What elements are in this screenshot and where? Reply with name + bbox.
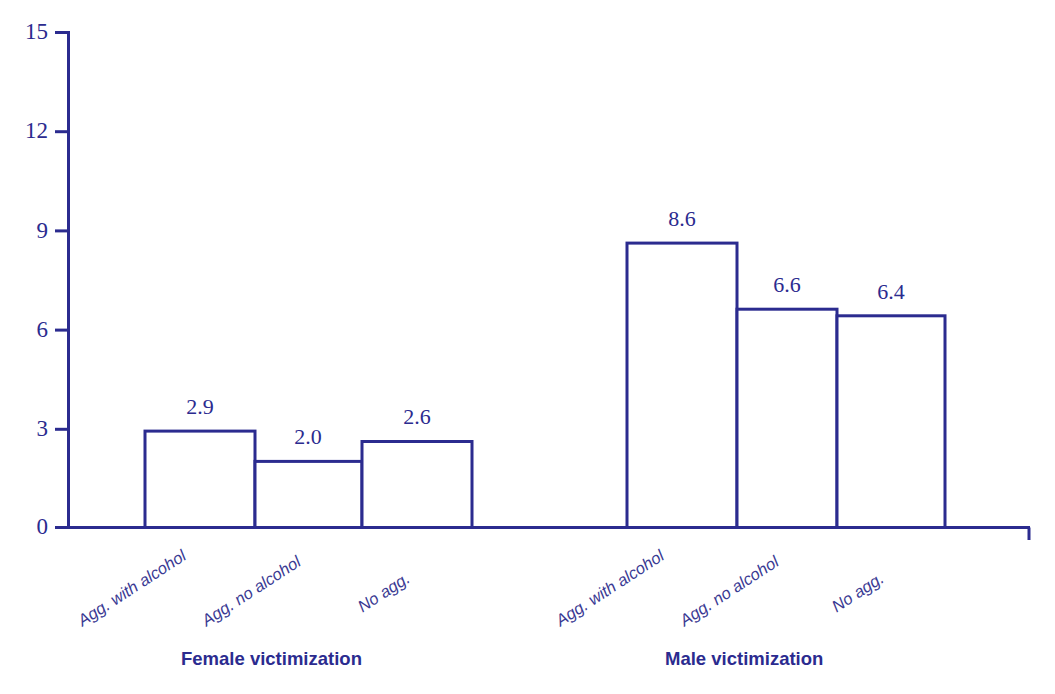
bar-value-male-agg-with-alcohol: 8.6: [642, 208, 722, 230]
y-tick-label-0: 0: [4, 515, 48, 538]
y-tick-label-9: 9: [4, 219, 48, 242]
group-caption-female: Female victimization: [181, 650, 362, 669]
bar-male-no-agg[interactable]: [837, 316, 945, 528]
bar-male-agg-no-alcohol[interactable]: [737, 309, 837, 527]
x-axis: [57, 528, 1030, 541]
bar-value-male-no-agg: 6.4: [851, 281, 931, 303]
bar-value-female-no-agg: 2.6: [377, 406, 457, 428]
bar-female-agg-no-alcohol[interactable]: [255, 461, 362, 527]
y-tick-label-3: 3: [4, 417, 48, 440]
chart-plot-area: [0, 0, 1055, 694]
y-tick-label-12: 12: [4, 119, 48, 142]
group-caption-male: Male victimization: [665, 650, 823, 669]
bar-female-no-agg[interactable]: [362, 442, 472, 528]
y-tick-label-6: 6: [4, 318, 48, 341]
bar-value-female-agg-no-alcohol: 2.0: [268, 426, 348, 448]
bar-chart: 15 12 9 6 3 0 2.9 2.0 2.6 8.6 6.6 6.4 Ag…: [0, 0, 1055, 694]
y-tick-label-15: 15: [4, 20, 48, 43]
bar-male-agg-with-alcohol[interactable]: [627, 243, 737, 527]
bar-female-agg-with-alcohol[interactable]: [145, 431, 255, 527]
bar-value-male-agg-no-alcohol: 6.6: [747, 274, 827, 296]
y-axis: [55, 31, 69, 528]
bar-value-female-agg-with-alcohol: 2.9: [160, 396, 240, 418]
